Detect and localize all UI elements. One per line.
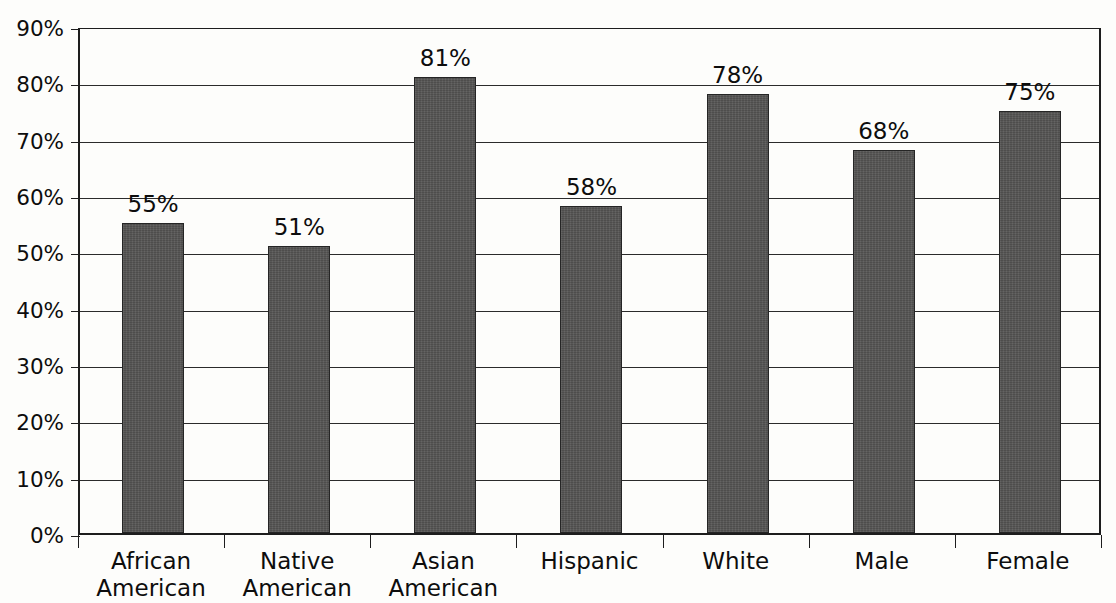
bar[interactable] [268,246,330,533]
y-axis-tick-mark [71,29,80,30]
cropped-title-remnant [0,0,1116,5]
x-axis-tick-mark [370,535,371,548]
y-axis-tick-label: 10% [0,466,64,491]
bar[interactable] [853,150,915,533]
y-axis-tick-label: 0% [0,523,64,548]
x-axis-tick-mark [663,535,664,548]
x-axis-category-label: Female [986,548,1069,575]
y-axis-tick-label: 90% [0,16,64,41]
x-axis-category-label: Native American [242,548,351,602]
y-axis-tick-mark [71,480,80,481]
x-axis-tick-mark [955,535,956,548]
bar-slot: 81% [372,29,518,533]
x-axis-tick-mark [78,535,79,548]
y-axis-tick-label: 50% [0,241,64,266]
bar-slot: 75% [957,29,1103,533]
bar-value-label: 51% [274,214,325,240]
y-axis-tick-label: 30% [0,354,64,379]
bar[interactable] [122,223,184,533]
y-axis-tick-mark [71,85,80,86]
bar[interactable] [707,94,769,533]
bar[interactable] [560,206,622,533]
y-axis-tick-label: 70% [0,128,64,153]
bar-value-label: 81% [420,45,471,71]
bar[interactable] [999,111,1061,534]
bar-value-label: 78% [712,62,763,88]
x-axis-tick-mark [224,535,225,548]
bar-slot: 78% [665,29,811,533]
bar-value-label: 68% [858,118,909,144]
y-axis-tick-mark [71,254,80,255]
bar-chart-figure: 0%10%20%30%40%50%60%70%80%90% 55%51%81%5… [0,0,1116,603]
bar[interactable] [414,77,476,533]
x-axis-category-label: Hispanic [541,548,639,575]
y-axis-tick-label: 20% [0,410,64,435]
y-axis-tick-mark [71,142,80,143]
bar-slot: 68% [811,29,957,533]
bar-slot: 58% [518,29,664,533]
bar-slot: 51% [226,29,372,533]
x-axis-tick-mark [809,535,810,548]
bar-value-label: 58% [566,174,617,200]
x-axis-tick-mark [1101,535,1102,548]
plot-area: 55%51%81%58%78%68%75% [78,28,1101,535]
x-axis-category-label: White [702,548,769,575]
x-axis-tick-mark [516,535,517,548]
y-axis-tick-mark [71,367,80,368]
x-axis-category-label: Male [855,548,909,575]
x-axis-category-label: African American [96,548,205,602]
bar-value-label: 55% [128,191,179,217]
x-axis-category-label: Asian American [389,548,498,602]
y-axis-tick-label: 80% [0,72,64,97]
bar-slot: 55% [80,29,226,533]
y-axis-tick-label: 40% [0,297,64,322]
y-axis-tick-mark [71,423,80,424]
y-axis-tick-label: 60% [0,185,64,210]
y-axis-tick-mark [71,311,80,312]
bar-value-label: 75% [1004,79,1055,105]
y-axis-tick-mark [71,198,80,199]
